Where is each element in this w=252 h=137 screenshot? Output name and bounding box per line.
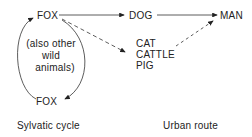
- note-line-3: animals): [24, 62, 86, 73]
- node-fox-bottom: FOX: [36, 96, 57, 107]
- arrow-domestic-man: [176, 21, 213, 46]
- node-cattle: CATTLE: [136, 49, 175, 60]
- node-cat: CAT: [136, 38, 156, 49]
- node-dog: DOG: [129, 10, 152, 21]
- note-line-2: wild: [20, 50, 82, 61]
- label-urban-route: Urban route: [163, 120, 218, 131]
- node-pig: PIG: [136, 60, 154, 71]
- note-line-1: (also other: [20, 38, 82, 49]
- label-sylvatic-cycle: Sylvatic cycle: [17, 120, 80, 131]
- node-fox-top: FOX: [37, 10, 58, 21]
- node-man: MAN: [220, 10, 243, 21]
